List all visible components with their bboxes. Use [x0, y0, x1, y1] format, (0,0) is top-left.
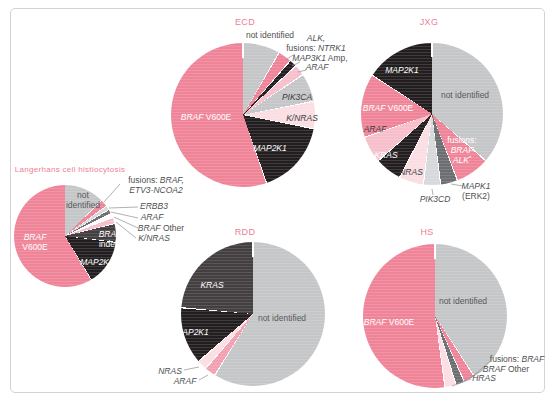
- label-ecd-map3k1-amp: MAP3K1 Amp,: [292, 53, 347, 63]
- label-rdd-araf: ARAF: [174, 376, 197, 386]
- pie-ecd: [171, 43, 315, 187]
- pie-langerhans-cell-histiocytosis: [14, 185, 116, 287]
- leader-line: [451, 184, 463, 186]
- pie-title-langerhans-cell-histiocytosis: Langerhans cell histiocytosis: [15, 165, 126, 174]
- leader-line: [111, 212, 138, 218]
- label-hs-braf-other: BRAF Other: [483, 364, 529, 374]
- pie-title-rdd: RDD: [235, 227, 255, 237]
- pie-title-ecd: ECD: [235, 17, 255, 27]
- pie-title-jxg: JXG: [420, 17, 438, 27]
- leader-line: [199, 375, 208, 380]
- label-lch-erbb3: ERBB3: [140, 201, 168, 211]
- leader-line: [104, 184, 120, 202]
- label-jxg-mapk1-erk2: MAPK1(ERK2): [462, 181, 491, 201]
- pie-rdd: [181, 242, 325, 386]
- label-rdd-nras: NRAS: [158, 366, 182, 376]
- label-lch-k-nras: K/NRAS: [138, 233, 170, 243]
- leader-line: [184, 367, 199, 370]
- label-jxg-pik3cd: PIK3CD: [420, 194, 451, 204]
- pie-jxg: [361, 43, 503, 185]
- leader-line: [432, 189, 433, 195]
- leader-line: [109, 207, 138, 208]
- label-lch-araf: ARAF: [141, 212, 164, 222]
- leader-line: [116, 222, 136, 238]
- leader-line: [114, 217, 138, 228]
- label-ecd-not-identified: not identified: [246, 30, 294, 40]
- histiocytosis-mutation-figure: Langerhans cell histiocytosis ECD JXG RD…: [0, 0, 557, 405]
- pie-title-hs: HS: [420, 227, 433, 237]
- pie-hs: [363, 244, 507, 388]
- label-lch-fusions-braf-etv3-ncoa2: fusions: BRAF,ETV3-NCOA2: [128, 175, 184, 195]
- label-hs-fusions-braf: fusions: BRAF: [490, 354, 544, 364]
- label-ecd-fusions-alk-ntrk1: ALK,fusions: NTRK1: [286, 33, 346, 53]
- label-lch-braf-other: BRAF Other: [138, 223, 184, 233]
- label-ecd-araf: ARAF: [306, 62, 329, 72]
